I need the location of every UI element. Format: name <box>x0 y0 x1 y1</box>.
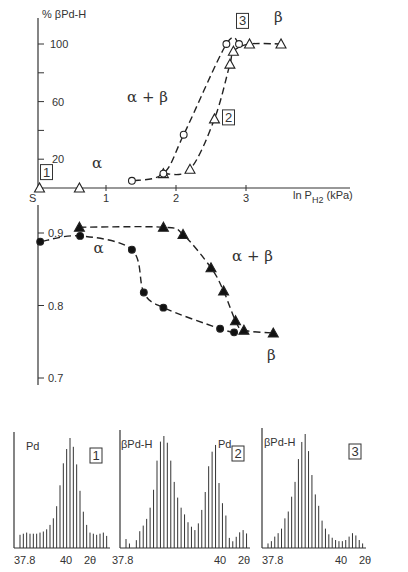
lower-y-tick-label: 0.9 <box>48 227 63 239</box>
phase-label: α + β <box>127 88 168 106</box>
upper-point-desorption <box>236 41 243 48</box>
lower-ticks: 0.90.80.7 <box>38 227 63 384</box>
figure: % βPd-H S ln PH2(kPa) 1232060100 αα + ββ… <box>0 0 408 572</box>
upper-curves <box>132 37 281 181</box>
xrd-tick-label: 40 <box>60 554 72 566</box>
lower-point-absorption <box>231 316 241 325</box>
xrd-tick-label: 40 <box>335 554 347 566</box>
upper-x-tick-label: 3 <box>243 192 249 204</box>
xrd-tick-label: 37.8 <box>14 554 35 566</box>
lower-y-tick-label: 0.7 <box>48 372 63 384</box>
upper-y-axis-label: % βPd-H <box>42 8 86 20</box>
lower-annotations: αα + ββ <box>93 239 275 364</box>
upper-x-tick-label: 1 <box>103 192 109 204</box>
lower-point-absorption <box>219 286 229 295</box>
lower-point-desorption <box>231 329 238 336</box>
sample-number: 3 <box>239 13 246 28</box>
upper-point-absorption <box>210 114 220 123</box>
upper-markers <box>35 39 287 192</box>
upper-plot-beta-fraction: % βPd-H S ln PH2(kPa) 1232060100 αα + ββ… <box>29 8 353 205</box>
sample-number: 1 <box>43 165 50 180</box>
lower-point-desorption <box>217 325 224 332</box>
xrd-panel-3: 37.8402θβPd-H3 <box>262 428 371 566</box>
lower-point-desorption <box>37 238 44 245</box>
xrd-phase-label: βPd-H <box>264 436 295 448</box>
upper-annotations: αα + ββ123 <box>41 8 283 179</box>
lower-curves <box>40 227 273 333</box>
phase-label: β <box>274 8 283 26</box>
phase-label: α + β <box>232 247 273 265</box>
lower-point-desorption <box>140 289 147 296</box>
sample-number: 1 <box>93 448 100 463</box>
phase-label: α <box>92 154 102 172</box>
upper-curve-absorption <box>163 43 281 174</box>
xrd-phase-label: Pd <box>26 440 39 452</box>
phase-label: α <box>93 239 103 257</box>
lower-y-tick-label: 0.8 <box>48 300 63 312</box>
upper-point-desorption <box>223 41 230 48</box>
lower-point-desorption <box>77 233 84 240</box>
upper-curve-desorption <box>132 37 239 181</box>
xrd-unit-label: 2θ <box>238 554 250 566</box>
upper-y-tick-label: 20 <box>52 153 64 165</box>
upper-point-desorption <box>160 170 167 177</box>
xrd-panel-2: 37.8402θβPd-HPd2 <box>112 430 250 566</box>
upper-point-desorption <box>129 177 136 184</box>
xrd-panel-1: 37.8402θPd1 <box>14 432 110 566</box>
xrd-phase-label: βPd-H <box>121 438 152 450</box>
xrd-unit-label: 2θ <box>359 554 371 566</box>
xrd-unit-label: 2θ <box>84 554 96 566</box>
xrd-tick-label: 37.8 <box>262 554 283 566</box>
lower-plot-lattice: 0.90.80.7 αα + ββ <box>37 205 278 385</box>
upper-x-tick-label: 2 <box>173 192 179 204</box>
sample-number: 3 <box>352 444 359 459</box>
upper-y-tick-label: 60 <box>52 96 64 108</box>
upper-x-axis-label: ln PH2(kPa) <box>293 189 353 205</box>
phase-label: β <box>267 346 276 364</box>
xrd-tick-label: 40 <box>214 554 226 566</box>
upper-y-tick-label: 100 <box>50 38 68 50</box>
lower-markers <box>37 222 278 337</box>
lower-point-desorption <box>160 304 167 311</box>
lower-point-absorption <box>239 325 249 334</box>
upper-x-origin-label: S <box>29 192 36 204</box>
upper-point-absorption <box>225 59 235 68</box>
sample-number: 2 <box>225 110 232 125</box>
xrd-phase-label: Pd <box>218 438 231 450</box>
lower-curve-absorption <box>79 227 273 333</box>
lower-point-desorption <box>129 246 136 253</box>
upper-point-desorption <box>180 131 187 138</box>
xrd-panels: 37.8402θPd137.8402θβPd-HPd237.8402θβPd-H… <box>14 428 371 566</box>
lower-curve-desorption <box>40 236 234 333</box>
sample-number: 2 <box>235 446 242 461</box>
xrd-tick-label: 37.8 <box>112 554 133 566</box>
